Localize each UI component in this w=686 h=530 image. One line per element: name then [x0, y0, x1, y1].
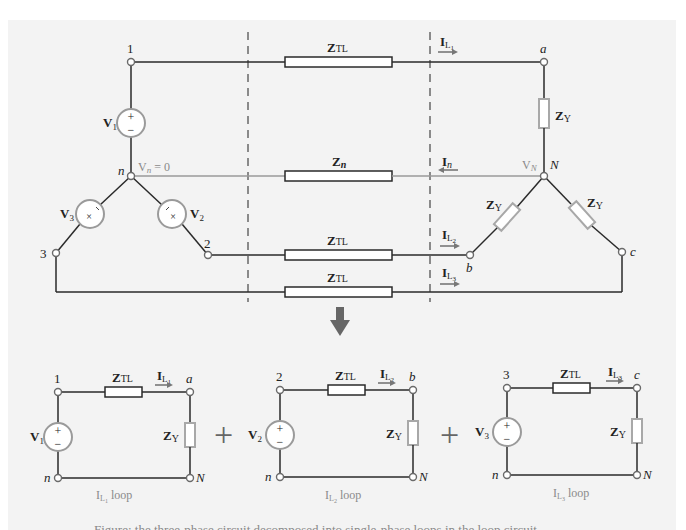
loop-3: + − 3 c n N V3 ZTL ZY IL3 IL3 loop [475, 364, 653, 502]
svg-text:ZY: ZY [163, 428, 179, 444]
minus-sign: − [128, 123, 135, 137]
voltage-source-v3: × [76, 200, 104, 228]
svg-text:+: + [277, 422, 284, 436]
svg-text:×: × [170, 211, 176, 222]
node-2 [205, 252, 212, 259]
node-1 [128, 59, 135, 66]
label-node-N: N [549, 157, 560, 172]
current-il2: IL2 [440, 227, 460, 249]
load-impedance-a [539, 99, 549, 128]
node-3 [53, 250, 60, 257]
current-in: In [438, 154, 458, 173]
plus-operator-1: + [214, 416, 233, 453]
loop-2: + − 2 b n N V2 ZTL ZY IL2 IL2 loop [248, 366, 429, 504]
loop2-node-source: 2 [276, 369, 283, 384]
plus-operator-2: + [440, 416, 459, 453]
label-zn: Zn [332, 154, 347, 170]
loop3-caption: IL3 loop [553, 486, 589, 502]
label-node-c: c [630, 244, 636, 259]
node-c [619, 249, 626, 256]
svg-text:+: + [504, 419, 511, 433]
svg-text:n: n [492, 467, 499, 482]
svg-text:n: n [44, 470, 51, 485]
svg-text:ZY: ZY [610, 424, 626, 440]
label-zy-b: ZY [486, 197, 502, 213]
label-ztl-2: ZTL [327, 233, 348, 248]
label-node-2: 2 [204, 236, 211, 251]
node-n [128, 173, 135, 180]
svg-text:IL2: IL2 [442, 227, 457, 245]
voltage-source-v1: + − [117, 109, 145, 137]
label-vN: VN [522, 158, 538, 173]
loop3-node-load: c [634, 367, 640, 382]
svg-text:×: × [86, 211, 92, 222]
svg-text:V1: V1 [30, 429, 44, 446]
label-zy-c: ZY [587, 195, 603, 211]
node-a [541, 59, 548, 66]
neutral-impedance [285, 171, 392, 181]
loop1-caption: IL1 loop [96, 488, 132, 504]
figure-caption-clipped: Figure: the three-phase circuit decompos… [94, 523, 654, 530]
svg-text:N: N [195, 470, 206, 485]
label-ztl-1: ZTL [327, 40, 348, 55]
label-node-3: 3 [40, 246, 47, 261]
line-impedance-1 [285, 57, 392, 67]
circuit-diagram: + − V1 × V3 × V2 [0, 0, 686, 530]
loop3-node-source: 3 [503, 367, 510, 382]
svg-text:−: − [277, 435, 284, 449]
loop2-node-load: b [409, 369, 416, 384]
label-node-a: a [540, 41, 547, 56]
label-vn-zero: Vn = 0 [138, 160, 170, 175]
loop1-node-load: a [186, 371, 193, 386]
svg-text:+: + [55, 424, 62, 438]
svg-text:N: N [642, 467, 653, 482]
svg-text:ZTL: ZTL [335, 368, 356, 383]
label-zy-a: ZY [555, 108, 571, 124]
voltage-source-v2: × [158, 200, 186, 228]
svg-text:IL3: IL3 [442, 265, 457, 283]
line-impedance-2 [285, 250, 392, 260]
node-b [467, 252, 474, 259]
line-1 [131, 57, 544, 67]
label-ztl-3: ZTL [327, 270, 348, 285]
line-impedance-3 [285, 287, 392, 297]
down-arrow-icon [330, 307, 350, 336]
loop-1: + − 1 a n N V1 ZTL ZY IL1 IL1 loop [30, 368, 206, 504]
svg-text:ZTL: ZTL [112, 370, 133, 385]
current-il3: IL3 [440, 265, 460, 287]
svg-text:−: − [504, 432, 511, 446]
plus-sign: + [128, 110, 135, 124]
label-node-n: n [118, 163, 125, 178]
svg-text:ZTL: ZTL [560, 366, 581, 381]
loop2-caption: IL2 loop [325, 488, 361, 504]
svg-text:n: n [265, 469, 272, 484]
svg-text:N: N [418, 469, 429, 484]
label-node-b: b [466, 260, 473, 275]
node-N [541, 173, 548, 180]
svg-text:V3: V3 [475, 424, 489, 441]
label-node-1: 1 [127, 41, 134, 56]
label-v1: V1 [103, 115, 117, 132]
svg-text:V2: V2 [248, 427, 262, 444]
loop1-node-source: 1 [54, 371, 61, 386]
svg-text:ZY: ZY [386, 426, 402, 442]
label-v2: V2 [190, 206, 204, 223]
current-il1: IL1 [438, 34, 458, 55]
label-v3: V3 [60, 206, 74, 223]
svg-text:−: − [55, 437, 62, 451]
